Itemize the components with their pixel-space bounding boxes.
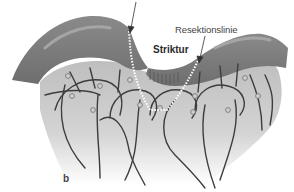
stricture-label: Striktur [153,44,189,55]
bowel-resection-diagram: Resektionslinie Striktur b [0,0,294,192]
diagram-canvas [0,0,294,192]
panel-label: b [63,173,69,184]
resection-line-label: Resektionslinie [175,24,237,35]
